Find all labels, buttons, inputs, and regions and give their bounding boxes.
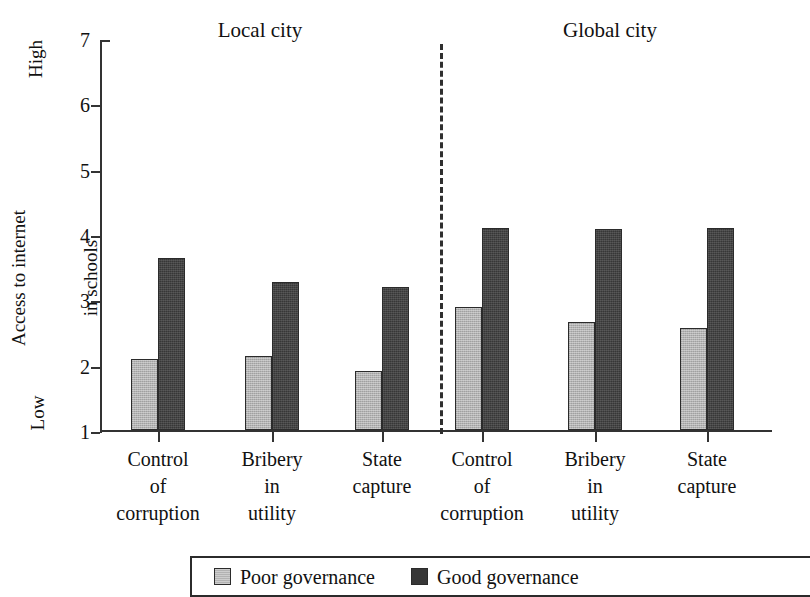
y-tick-4: [91, 236, 100, 238]
category-label: Briberyinutility: [535, 446, 655, 527]
bar-good-governance: [158, 258, 185, 430]
y-axis-low-label: Low: [27, 383, 49, 443]
bar-poor-governance: [355, 371, 382, 430]
y-axis-line: [100, 40, 102, 433]
x-tick: [272, 432, 274, 442]
chart-legend: Poor governance Good governance: [190, 556, 810, 597]
category-label-line-1: Bribery: [535, 446, 655, 473]
category-label-line-1: Control: [422, 446, 542, 473]
category-label-line-3: utility: [212, 500, 332, 527]
category-label-line-3: corruption: [422, 500, 542, 527]
category-label: Briberyinutility: [212, 446, 332, 527]
category-label: Statecapture: [647, 446, 767, 500]
category-label-line-1: Control: [98, 446, 218, 473]
y-tick-7: [100, 40, 110, 42]
x-tick: [707, 432, 709, 442]
y-tick-label-6: 6: [66, 95, 90, 115]
bar-good-governance: [272, 282, 299, 430]
y-tick-label-1: 1: [66, 422, 90, 442]
y-tick-label-2: 2: [66, 357, 90, 377]
category-label-line-3: utility: [535, 500, 655, 527]
y-tick-5: [91, 171, 100, 173]
category-label-line-3: corruption: [98, 500, 218, 527]
category-label: Controlofcorruption: [422, 446, 542, 527]
bar-good-governance: [707, 228, 734, 430]
category-label-line-2: of: [98, 473, 218, 500]
legend-item-good-governance: Good governance: [411, 566, 579, 588]
y-tick-label-3: 3: [66, 291, 90, 311]
bar-poor-governance: [680, 328, 707, 430]
y-tick-label-5: 5: [66, 161, 90, 181]
bar-poor-governance: [455, 307, 482, 430]
x-axis-line: [100, 430, 772, 432]
bar-poor-governance: [131, 359, 158, 430]
legend-item-poor-governance: Poor governance: [214, 566, 375, 588]
panel-divider-dashed: [440, 44, 443, 434]
bar-good-governance: [595, 229, 622, 430]
legend-label-good: Good governance: [437, 566, 579, 588]
category-label-line-1: State: [647, 446, 767, 473]
panel-title-global-city: Global city: [520, 18, 700, 42]
legend-label-poor: Poor governance: [240, 566, 375, 588]
bar-good-governance: [382, 287, 409, 430]
category-label-line-1: Bribery: [212, 446, 332, 473]
category-label-line-2: of: [422, 473, 542, 500]
x-tick: [595, 432, 597, 442]
panel-title-local-city: Local city: [170, 18, 350, 42]
category-label-line-2: in: [535, 473, 655, 500]
legend-swatch-poor-icon: [214, 568, 231, 585]
x-tick: [382, 432, 384, 442]
y-tick-2: [91, 367, 100, 369]
bar-poor-governance: [245, 356, 272, 430]
x-tick: [482, 432, 484, 442]
bar-poor-governance: [568, 322, 595, 430]
y-axis-high-label: High: [25, 29, 47, 89]
legend-swatch-good-icon: [411, 568, 428, 585]
x-tick: [158, 432, 160, 442]
y-tick-1: [91, 432, 100, 434]
y-tick-label-7: 7: [66, 30, 90, 50]
category-label-line-2: capture: [647, 473, 767, 500]
category-label: Controlofcorruption: [98, 446, 218, 527]
y-tick-label-4: 4: [66, 226, 90, 246]
bar-good-governance: [482, 228, 509, 430]
y-tick-6: [91, 105, 100, 107]
y-tick-3: [91, 301, 100, 303]
category-label-line-2: in: [212, 473, 332, 500]
plot-area: 1234567: [100, 40, 772, 432]
